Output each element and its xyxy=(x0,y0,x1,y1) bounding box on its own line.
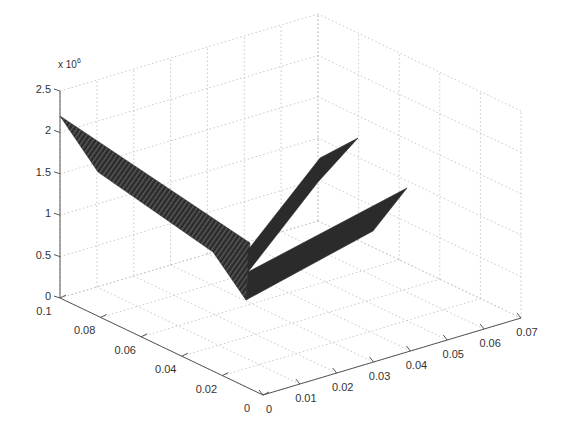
x-tick-label: 0.07 xyxy=(516,326,537,338)
x-tick-label: 0.01 xyxy=(295,392,316,404)
x-tick xyxy=(406,346,410,351)
z-tick xyxy=(54,296,60,298)
x-tick-label: 0.06 xyxy=(479,337,500,349)
surface-plot-3d: 00.010.020.030.040.050.060.0700.020.040.… xyxy=(0,0,580,431)
grid-line xyxy=(97,287,300,384)
x-tick-label: 0 xyxy=(266,403,272,415)
x-tick xyxy=(517,313,521,318)
x-tick xyxy=(296,379,300,384)
y-tick-label: 0.06 xyxy=(114,344,135,356)
x-tick xyxy=(443,335,447,340)
z-tick-label: 2 xyxy=(45,124,51,136)
z-tick xyxy=(54,255,60,257)
z-tick xyxy=(54,89,60,91)
y-tick-label: 0.1 xyxy=(36,305,51,317)
x-tick-label: 0.05 xyxy=(443,348,464,360)
x-tick-label: 0.04 xyxy=(406,359,427,371)
y-tick-label: 0.02 xyxy=(196,383,217,395)
grid-line xyxy=(318,14,521,111)
z-tick-label: 0 xyxy=(45,290,51,302)
z-tick xyxy=(54,130,60,132)
y-axis-line xyxy=(60,298,263,395)
grid-line xyxy=(222,299,480,376)
grid-line xyxy=(134,276,337,373)
x-tick xyxy=(370,357,374,362)
z-tick xyxy=(54,172,60,174)
grid-line xyxy=(60,14,318,91)
x-tick xyxy=(333,368,337,373)
y-tick-label: 0.04 xyxy=(155,363,176,375)
z-tick xyxy=(54,213,60,215)
y-tick-label: 0 xyxy=(244,402,250,414)
grid-line xyxy=(60,55,318,132)
z-tick-label: 1 xyxy=(45,207,51,219)
x-tick xyxy=(480,324,484,329)
z-tick-label: 1.5 xyxy=(36,166,51,178)
z-multiplier-label: x 106 xyxy=(58,57,81,70)
x-tick-label: 0.03 xyxy=(369,370,390,382)
x-tick-label: 0.02 xyxy=(332,381,353,393)
y-tick-label: 0.08 xyxy=(74,324,95,336)
z-tick-label: 0.5 xyxy=(36,249,51,261)
surface xyxy=(60,116,407,300)
grid-line xyxy=(318,55,521,152)
z-tick-label: 2.5 xyxy=(36,83,51,95)
x-axis-line xyxy=(263,318,521,395)
